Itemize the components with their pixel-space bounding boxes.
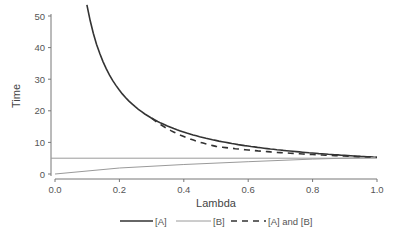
plot-area [51, 5, 377, 174]
legend-label-ab: [A] and [B] [268, 216, 312, 227]
y-ticks: 01020304050 [34, 11, 51, 180]
legend-label-b: [B] [213, 216, 225, 227]
chart: 01020304050 0.00.20.40.60.81.0 Time Lamb… [0, 0, 394, 238]
y-tick-label: 10 [34, 137, 45, 148]
series-line [55, 157, 377, 174]
y-axis-label: Time [10, 84, 22, 108]
x-tick-label: 0.2 [113, 184, 126, 195]
y-tick-label: 50 [34, 11, 45, 22]
x-tick-label: 0.0 [48, 184, 61, 195]
legend: [A] [B] [A] and [B] [120, 216, 312, 227]
y-tick-label: 20 [34, 105, 45, 116]
series-line [87, 5, 377, 157]
x-tick-label: 0.4 [177, 184, 190, 195]
legend-label-a: [A] [155, 216, 167, 227]
x-ticks: 0.00.20.40.60.81.0 [48, 179, 383, 195]
x-tick-label: 1.0 [370, 184, 383, 195]
y-tick-label: 30 [34, 74, 45, 85]
x-axis-label: Lambda [196, 197, 237, 209]
axes: 01020304050 0.00.20.40.60.81.0 [34, 11, 383, 196]
x-tick-label: 0.6 [242, 184, 255, 195]
x-tick-label: 0.8 [306, 184, 319, 195]
y-tick-label: 40 [34, 42, 45, 53]
series-line [152, 118, 377, 157]
y-tick-label: 0 [40, 169, 45, 180]
